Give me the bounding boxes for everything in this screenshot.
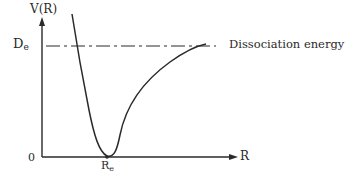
origin-label: 0 <box>28 151 35 164</box>
potential-energy-diagram: V(R) De 0 Re R Dissociation energy <box>0 0 345 184</box>
re-label-sub: e <box>109 164 114 173</box>
de-label-main: D <box>13 36 23 51</box>
de-label-sub: e <box>23 42 28 52</box>
potential-curve <box>72 14 206 156</box>
diagram-canvas <box>0 0 345 184</box>
y-axis-arrow-icon <box>39 17 45 26</box>
x-axis-arrow-icon <box>229 154 238 160</box>
dissociation-energy-label: Dissociation energy <box>229 37 344 51</box>
de-label: De <box>13 36 29 52</box>
x-axis-label: R <box>240 149 249 163</box>
re-label: Re <box>101 159 114 173</box>
y-axis-label: V(R) <box>30 2 57 16</box>
